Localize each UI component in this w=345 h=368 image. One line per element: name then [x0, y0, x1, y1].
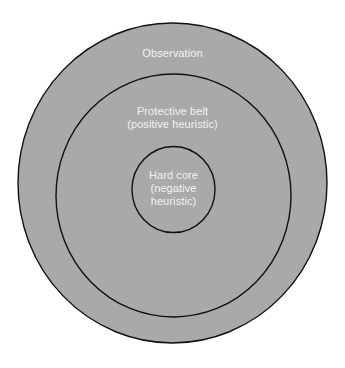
hard-core-label-line-3: heuristic)	[1, 195, 345, 208]
hard-core-label: Hard core (negative heuristic)	[1, 169, 345, 208]
lakatos-diagram: Observation Protective belt (positive he…	[0, 0, 345, 368]
observation-label: Observation	[0, 47, 345, 60]
protective-belt-label: Protective belt (positive heuristic)	[0, 105, 345, 131]
protective-belt-label-line-1: Protective belt	[0, 105, 345, 118]
hard-core-label-line-1: Hard core	[1, 169, 345, 182]
hard-core-label-line-2: (negative	[1, 182, 345, 195]
observation-label-line-1: Observation	[142, 47, 202, 59]
protective-belt-label-line-2: (positive heuristic)	[0, 118, 345, 131]
